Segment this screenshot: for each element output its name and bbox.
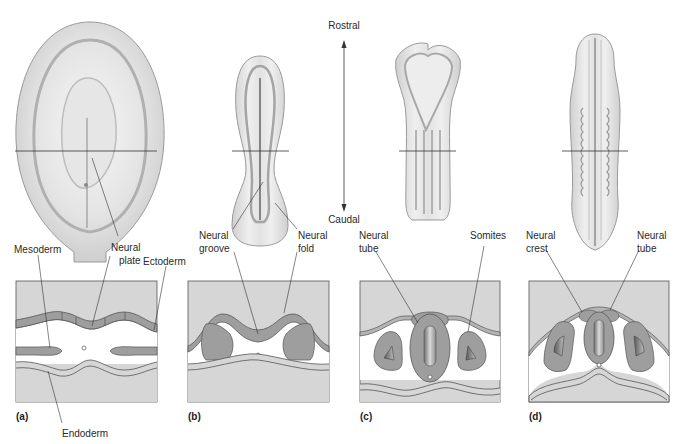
panel-letter-b: (b)	[188, 411, 201, 422]
neural-groove-label-line1: Neural	[199, 230, 228, 242]
somites-label: Somites	[470, 230, 506, 242]
panel-letter-a: (a)	[16, 411, 28, 422]
panel-letter-d: (d)	[529, 411, 542, 422]
cross-section-d	[529, 281, 669, 402]
embryo-c-drawing	[396, 43, 461, 220]
arrow-down-icon	[342, 204, 347, 212]
caudal-label: Caudal	[326, 214, 362, 226]
neural-crest-label-line1: Neural	[526, 230, 555, 242]
cross-section-b	[188, 281, 329, 402]
cross-section-c	[360, 281, 500, 402]
rostral-caudal-axis	[342, 40, 347, 212]
neural-plate-label-line2: plate	[119, 255, 141, 267]
cross-section-a	[16, 281, 157, 402]
embryo-d-drawing	[562, 34, 628, 250]
embryo-a-drawing	[15, 22, 164, 262]
neural-tube-d-label-line2: tube	[637, 243, 656, 255]
neural-fold-label-line2: fold	[298, 243, 314, 255]
ectoderm-label: Ectoderm	[143, 256, 186, 268]
neural-tube-d-label-line1: Neural	[637, 230, 666, 242]
neural-tube-c-label-line1: Neural	[359, 230, 388, 242]
neural-plate-label-line1: Neural	[111, 242, 140, 254]
endoderm-label: Endoderm	[62, 428, 108, 440]
neural-crest-label-line2: crest	[526, 243, 548, 255]
arrow-up-icon	[342, 40, 347, 48]
neural-tube-c-label-line2: tube	[359, 243, 378, 255]
neural-groove-label-line2: groove	[199, 243, 230, 255]
rostral-label: Rostral	[326, 20, 362, 32]
panel-letter-c: (c)	[360, 411, 372, 422]
mesoderm-label: Mesoderm	[14, 244, 61, 256]
neural-fold-label-line1: Neural	[298, 230, 327, 242]
